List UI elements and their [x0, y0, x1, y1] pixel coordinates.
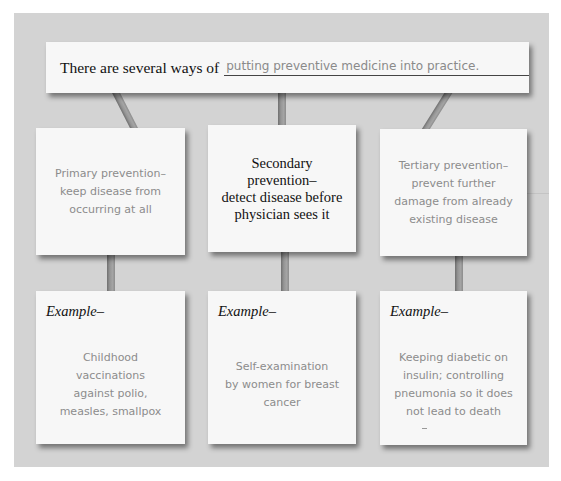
connector-primary-example	[107, 254, 115, 294]
primary-example-box: Example– Childhood vaccinations against …	[36, 291, 185, 444]
title-box: There are several ways of putting preven…	[46, 42, 529, 93]
text-line: Self-examination	[212, 358, 352, 376]
text-line: measles, smallpox	[40, 403, 181, 421]
secondary-example-text: Self-examination by women for breast can…	[212, 358, 352, 412]
tertiary-prevention-text: Tertiary prevention– prevent further dam…	[394, 157, 513, 229]
text-line: pneumonia so it does	[384, 385, 523, 403]
text-line: prevent further	[394, 175, 513, 193]
example-label: Example–	[390, 303, 517, 320]
text-line: not lead to death	[384, 403, 523, 421]
primary-prevention-box: Primary prevention– keep disease from oc…	[36, 128, 185, 255]
stray-line	[527, 193, 549, 194]
title-lead-text: There are several ways of	[60, 59, 219, 77]
tertiary-prevention-box: Tertiary prevention– prevent further dam…	[380, 129, 527, 256]
example-label: Example–	[46, 303, 175, 320]
text-line: damage from already	[394, 193, 513, 211]
text-line: detect disease before	[222, 189, 343, 206]
tertiary-example-box: Example– Keeping diabetic on insulin; co…	[380, 291, 527, 445]
text-line: vaccinations	[40, 367, 181, 385]
text-line: by women for breast	[212, 376, 352, 394]
secondary-example-box: Example– Self-examination by women for b…	[208, 291, 356, 444]
text-line: Keeping diabetic on	[384, 349, 523, 367]
text-line: prevention–	[222, 172, 343, 189]
connector-title-secondary	[278, 92, 286, 127]
stray-dash	[422, 428, 427, 429]
text-line: against polio,	[40, 385, 181, 403]
text-line: cancer	[212, 394, 352, 412]
text-line: Secondary	[222, 155, 343, 172]
text-line: existing disease	[394, 211, 513, 229]
connector-tertiary-example	[455, 254, 463, 294]
tertiary-example-text: Keeping diabetic on insulin; controlling…	[384, 349, 523, 421]
text-line: insulin; controlling	[384, 367, 523, 385]
connector-secondary-example	[281, 250, 289, 294]
text-line: occurring at all	[55, 201, 166, 219]
text-line: Childhood	[40, 349, 181, 367]
primary-prevention-text: Primary prevention– keep disease from oc…	[55, 165, 166, 219]
text-line: keep disease from	[55, 183, 166, 201]
text-line: Primary prevention–	[55, 165, 166, 183]
text-line: Tertiary prevention–	[394, 157, 513, 175]
secondary-prevention-box: Secondary prevention– detect disease bef…	[208, 125, 356, 252]
primary-example-text: Childhood vaccinations against polio, me…	[40, 349, 181, 421]
title-fill-in-text: putting preventive medicine into practic…	[224, 59, 529, 76]
text-line: physician sees it	[222, 206, 343, 223]
secondary-prevention-text: Secondary prevention– detect disease bef…	[222, 155, 343, 223]
example-label: Example–	[218, 303, 346, 320]
